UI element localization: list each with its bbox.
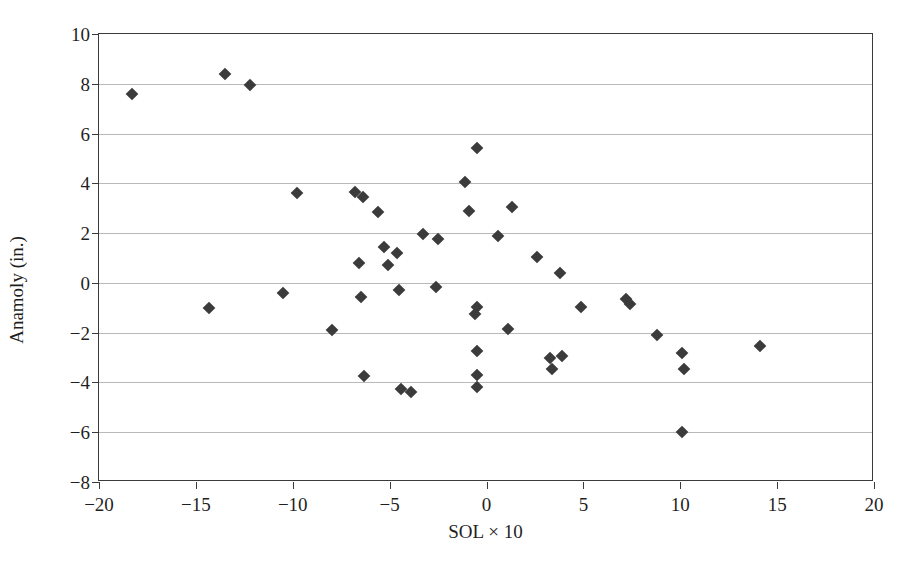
data-point [575,300,588,313]
y-axis-tick [92,183,99,184]
data-point [556,350,569,363]
y-axis-tick [92,84,99,85]
data-point [354,290,367,303]
plot-area: −8−6−4−20246810 −20−15−10−505101520 [98,33,873,481]
x-axis-tick-label: −20 [84,495,114,514]
x-axis-tick-label: 0 [482,495,492,514]
gridline [99,233,872,234]
data-point [393,284,406,297]
gridline [99,333,872,334]
y-axis-tick-label: 2 [81,224,91,243]
data-point [505,201,518,214]
x-axis-tick-label: −15 [181,495,211,514]
data-point [459,176,472,189]
data-point [432,233,445,246]
gridline [99,134,872,135]
y-axis-tick [92,482,99,483]
x-axis-tick [390,482,391,489]
y-axis-tick-label: −4 [70,373,90,392]
x-axis-tick-label: −10 [278,495,308,514]
data-point [391,247,404,260]
data-point [377,240,390,253]
y-axis-tick [92,233,99,234]
y-axis-tick-label: −2 [70,323,90,342]
data-point [463,204,476,217]
data-point [651,329,664,342]
x-axis-tick [293,482,294,489]
data-point [416,228,429,241]
x-axis-tick [680,482,681,489]
data-point [470,142,483,155]
x-axis-tick-label: 5 [579,495,589,514]
y-axis-title: Anamoly (in.) [6,66,30,514]
y-axis-tick-label: 10 [71,25,90,44]
y-axis-tick [92,134,99,135]
gridline [99,84,872,85]
y-axis-tick-label: −8 [70,473,90,492]
data-point [492,229,505,242]
data-point [352,257,365,270]
data-point [277,286,290,299]
data-point [372,206,385,219]
data-point [325,324,338,337]
data-point [470,345,483,358]
data-point [470,369,483,382]
y-axis-tick [92,34,99,35]
data-point [219,67,232,80]
gridline [99,183,872,184]
x-axis-title: SOL × 10 [98,521,873,543]
data-point [531,250,544,263]
x-axis-tick-label: 10 [671,495,690,514]
gridline [99,283,872,284]
data-point [203,301,216,314]
x-axis-tick [583,482,584,489]
data-point [678,362,691,375]
data-point [676,346,689,359]
data-point [358,370,371,383]
data-point [544,351,557,364]
data-point [676,426,689,439]
gridline [99,382,872,383]
y-axis-tick [92,283,99,284]
x-axis-tick [487,482,488,489]
y-axis-tick [92,382,99,383]
data-point [244,79,257,92]
scatter-chart-figure: −8−6−4−20246810 −20−15−10−505101520 SOL … [0,0,915,575]
x-axis-tick [99,482,100,489]
y-axis-tick [92,333,99,334]
x-axis-tick-label: 15 [768,495,787,514]
x-axis-tick [196,482,197,489]
y-axis-tick-label: 6 [81,124,91,143]
x-axis-tick-label: −5 [380,495,400,514]
data-point [290,187,303,200]
y-axis-tick-label: 0 [81,273,91,292]
data-point [546,362,559,375]
data-point [381,259,394,272]
x-axis-tick [874,482,875,489]
data-point [126,87,139,100]
y-axis-tick [92,432,99,433]
y-axis-tick-label: 8 [81,74,91,93]
data-point [753,340,766,353]
gridline [99,432,872,433]
data-point [554,267,567,280]
y-axis-tick-label: −6 [70,423,90,442]
y-axis-tick-label: 4 [81,174,91,193]
x-axis-tick-label: 20 [865,495,884,514]
x-axis-tick [777,482,778,489]
